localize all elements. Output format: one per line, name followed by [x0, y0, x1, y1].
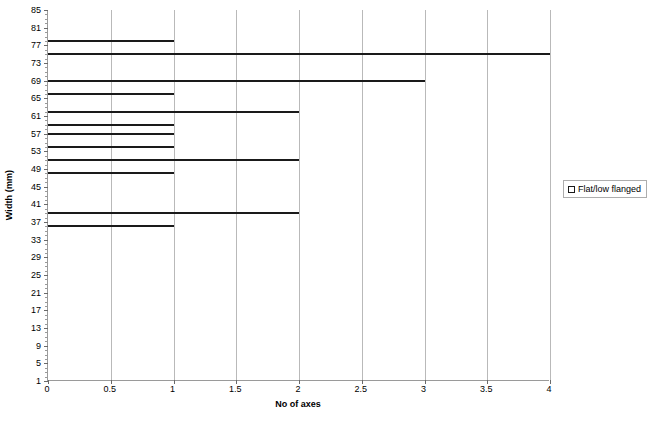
- y-axis-minor-tick: [45, 138, 48, 139]
- y-axis-minor-tick: [45, 120, 48, 121]
- vertical-gridline: [362, 10, 363, 380]
- y-axis-tick-label: 33: [31, 235, 41, 244]
- y-axis-tick: [44, 204, 48, 205]
- y-axis-tick-label: 69: [31, 76, 41, 85]
- y-axis-tick: [44, 222, 48, 223]
- y-axis-tick: [44, 28, 48, 29]
- y-axis-minor-tick: [45, 37, 48, 38]
- y-axis-tick-label: 5: [36, 359, 41, 368]
- x-axis-tick-label: 2.5: [354, 384, 367, 394]
- bar: [48, 40, 174, 42]
- y-axis-minor-tick: [45, 302, 48, 303]
- x-axis-title: No of axes: [47, 399, 549, 409]
- y-axis-minor-tick: [45, 350, 48, 351]
- vertical-gridline: [299, 10, 300, 380]
- vertical-gridline: [425, 10, 426, 380]
- y-axis-tick-label: 53: [31, 147, 41, 156]
- y-axis-tick-label: 9: [36, 341, 41, 350]
- y-axis-tick-label: 45: [31, 182, 41, 191]
- y-axis-minor-tick: [45, 218, 48, 219]
- y-axis-tick: [44, 187, 48, 188]
- y-axis-tick: [44, 293, 48, 294]
- y-axis-minor-tick: [45, 143, 48, 144]
- x-axis-tick-label: 3: [421, 384, 426, 394]
- chart-container: Width (mm) 15913172125293337414549535761…: [0, 0, 659, 421]
- y-axis-tick-label: 29: [31, 253, 41, 262]
- y-axis-tick: [44, 169, 48, 170]
- legend-entry-label: Flat/low flanged: [578, 184, 641, 194]
- y-axis-minor-tick: [45, 191, 48, 192]
- bar: [48, 146, 174, 148]
- legend-open-square-icon: [568, 186, 575, 193]
- y-axis-tick: [44, 275, 48, 276]
- x-axis-tick-label: 2: [295, 384, 300, 394]
- x-axis-tick-label: 1.5: [229, 384, 242, 394]
- y-axis-minor-tick: [45, 19, 48, 20]
- y-axis-minor-tick: [45, 249, 48, 250]
- y-axis-tick: [44, 240, 48, 241]
- x-axis-tick-label: 3.5: [480, 384, 493, 394]
- y-axis-minor-tick: [45, 324, 48, 325]
- y-axis-minor-tick: [45, 319, 48, 320]
- y-axis-tick-label: 49: [31, 165, 41, 174]
- y-axis-minor-tick: [45, 337, 48, 338]
- y-axis-minor-tick: [45, 231, 48, 232]
- y-axis-tick-labels: 1591317212529333741454953576165697377818…: [18, 10, 44, 381]
- y-axis-minor-tick: [45, 72, 48, 73]
- y-axis-minor-tick: [45, 156, 48, 157]
- y-axis-tick-label: 85: [31, 6, 41, 15]
- y-axis-minor-tick: [45, 129, 48, 130]
- y-axis-minor-tick: [45, 297, 48, 298]
- x-axis-tick-label: 1: [170, 384, 175, 394]
- y-axis-minor-tick: [45, 341, 48, 342]
- y-axis-minor-tick: [45, 315, 48, 316]
- y-axis-minor-tick: [45, 235, 48, 236]
- y-axis-tick: [44, 381, 48, 382]
- y-axis-minor-tick: [45, 288, 48, 289]
- bar: [48, 53, 550, 55]
- y-axis-minor-tick: [45, 306, 48, 307]
- y-axis-minor-tick: [45, 200, 48, 201]
- x-axis-tick-label: 0.5: [103, 384, 116, 394]
- y-axis-tick-label: 1: [36, 377, 41, 386]
- bar: [48, 133, 174, 135]
- bar: [48, 93, 174, 95]
- y-axis-minor-tick: [45, 103, 48, 104]
- y-axis-tick-label: 73: [31, 59, 41, 68]
- bar: [48, 225, 174, 227]
- y-axis-minor-tick: [45, 59, 48, 60]
- vertical-gridline: [236, 10, 237, 380]
- y-axis-tick: [44, 310, 48, 311]
- x-axis-tick-labels: 00.511.522.533.54: [47, 384, 549, 398]
- vertical-gridline: [550, 10, 551, 380]
- y-axis-minor-tick: [45, 332, 48, 333]
- y-axis-minor-tick: [45, 359, 48, 360]
- bar: [48, 124, 174, 126]
- y-axis-minor-tick: [45, 32, 48, 33]
- y-axis-title-label: Width (mm): [4, 170, 14, 220]
- y-axis-minor-tick: [45, 165, 48, 166]
- y-axis-minor-tick: [45, 279, 48, 280]
- y-axis-tick-label: 81: [31, 23, 41, 32]
- vertical-gridline: [174, 10, 175, 380]
- y-axis-minor-tick: [45, 262, 48, 263]
- y-axis-minor-tick: [45, 14, 48, 15]
- y-axis-minor-tick: [45, 196, 48, 197]
- chart-legend: Flat/low flanged: [563, 180, 647, 198]
- y-axis-minor-tick: [45, 76, 48, 77]
- y-axis-minor-tick: [45, 90, 48, 91]
- y-axis-title: Width (mm): [0, 0, 18, 390]
- plot-inner: [48, 10, 549, 380]
- y-axis-tick-label: 61: [31, 112, 41, 121]
- y-axis-tick-label: 41: [31, 200, 41, 209]
- y-axis-tick: [44, 328, 48, 329]
- y-axis-minor-tick: [45, 107, 48, 108]
- y-axis-minor-tick: [45, 67, 48, 68]
- bar: [48, 80, 425, 82]
- y-axis-tick: [44, 45, 48, 46]
- bar: [48, 212, 299, 214]
- y-axis-minor-tick: [45, 182, 48, 183]
- y-axis-tick: [44, 151, 48, 152]
- y-axis-tick: [44, 363, 48, 364]
- x-axis-tick-label: 4: [546, 384, 551, 394]
